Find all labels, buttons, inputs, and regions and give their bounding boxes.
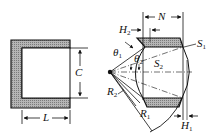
label-h1: H1 — [181, 120, 192, 133]
label-s2-sub: 2 — [160, 63, 164, 71]
label-r2: R2 — [107, 86, 117, 99]
label-h2-base: H — [119, 23, 127, 35]
label-r2-base: R — [107, 85, 114, 97]
label-h1-base: H — [181, 119, 189, 131]
label-r1-sub: 1 — [147, 113, 151, 121]
label-r2-sub: 2 — [114, 91, 118, 99]
label-theta1: θ1 — [113, 47, 122, 60]
label-r1: R1 — [140, 108, 150, 121]
label-theta1-sub: 1 — [118, 52, 122, 60]
label-s1: S1 — [197, 38, 206, 51]
label-l: L — [43, 112, 49, 123]
label-n: N — [158, 11, 165, 22]
label-c: C — [75, 67, 82, 78]
label-h2: H2 — [119, 24, 130, 37]
label-theta2: θ2 — [134, 53, 143, 66]
label-s2: S2 — [154, 58, 163, 71]
label-h1-sub: 1 — [189, 125, 193, 133]
label-s1-sub: 1 — [203, 43, 207, 51]
label-theta2-sub: 2 — [139, 58, 143, 66]
c-section-figure — [11, 40, 88, 124]
label-h2-sub: 2 — [127, 29, 131, 37]
diagram-canvas — [0, 0, 218, 137]
label-r1-base: R — [140, 107, 147, 119]
